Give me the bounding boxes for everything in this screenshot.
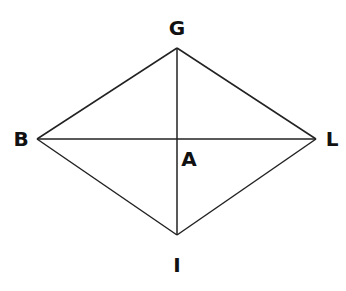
edge-IB [37,139,177,235]
rhombus-diagram: G B L I A [0,0,346,291]
edge-GL [177,48,316,139]
label-A: A [181,147,197,171]
label-I: I [173,253,180,277]
edge-LI [177,139,316,235]
edge-BG [37,48,177,139]
label-L: L [326,127,339,151]
label-G: G [169,16,185,40]
label-B: B [13,127,28,151]
